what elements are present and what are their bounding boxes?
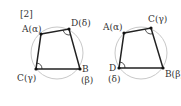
angle-mark-C bbox=[37, 63, 42, 69]
vertex-label-B: B(β) bbox=[165, 69, 181, 79]
angle-mark-D bbox=[120, 62, 125, 68]
figure-label: [2] bbox=[20, 9, 33, 19]
vertex-label-A: A(α) bbox=[102, 22, 123, 32]
vertex-C bbox=[149, 26, 152, 29]
vertex-label-D: D bbox=[109, 63, 116, 73]
left-quadrilateral-diagram: A(α)D(δ)B(β)C(γ) bbox=[17, 18, 93, 85]
vertex-label-A: A(α) bbox=[21, 24, 42, 34]
vertex-label-D: D(δ) bbox=[71, 18, 91, 28]
quadrilateral-edges bbox=[36, 29, 80, 69]
vertex-C bbox=[34, 67, 37, 70]
vertex-D bbox=[117, 66, 120, 69]
vertex-sublabel-B: (β) bbox=[81, 75, 93, 85]
quadrilateral-edges bbox=[119, 28, 163, 68]
vertex-label-C: C(γ) bbox=[17, 73, 36, 83]
cyclic-quadrilaterals-figure: [2] A(α)D(δ)B(β)C(γ) A(α)C(γ)B(β)D(δ) bbox=[0, 0, 181, 106]
vertex-A bbox=[122, 31, 125, 34]
vertex-label-C: C(γ) bbox=[148, 14, 167, 24]
right-quadrilateral-diagram: A(α)C(γ)B(β)D(δ) bbox=[102, 14, 181, 84]
vertex-sublabel-D: (δ) bbox=[108, 74, 120, 84]
vertex-label-B: B bbox=[82, 64, 89, 74]
